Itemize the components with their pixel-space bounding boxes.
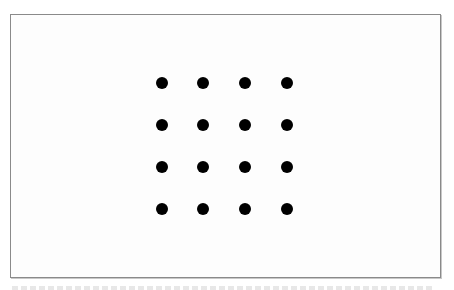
dot-r2-c1 [156, 119, 168, 131]
dot-r1-c1 [156, 77, 168, 89]
dot-r4-c1 [156, 203, 168, 215]
dot-r3-c3 [239, 161, 251, 173]
dot-r4-c3 [239, 203, 251, 215]
dot-r2-c2 [197, 119, 209, 131]
dot-r1-c2 [197, 77, 209, 89]
dot-r1-c4 [281, 77, 293, 89]
dot-r3-c4 [281, 161, 293, 173]
dot-r3-c2 [197, 161, 209, 173]
figure-frame [10, 14, 441, 278]
dot-r4-c4 [281, 203, 293, 215]
dot-r1-c3 [239, 77, 251, 89]
caption-text-fragment [12, 286, 432, 290]
dot-r4-c2 [197, 203, 209, 215]
clipped-caption [0, 283, 454, 290]
dot-r2-c3 [239, 119, 251, 131]
dot-r3-c1 [156, 161, 168, 173]
dot-r2-c4 [281, 119, 293, 131]
